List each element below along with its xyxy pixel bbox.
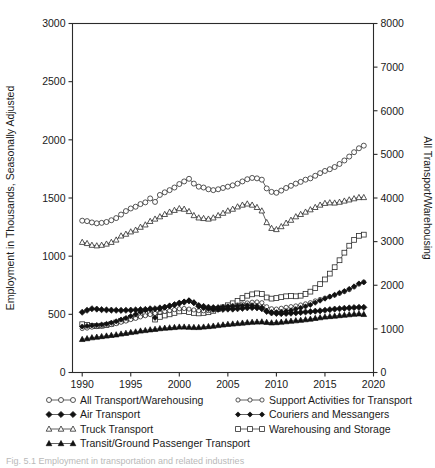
data-point [318,282,323,287]
data-point [196,184,201,189]
data-point [352,150,357,155]
data-point [356,146,361,151]
data-point [259,177,264,182]
data-point [255,291,260,296]
data-point [248,398,252,402]
y2-tick-label: 1000 [381,323,405,335]
data-point [288,183,293,188]
data-point [216,187,221,192]
data-point [191,181,196,186]
data-point [128,206,133,211]
data-point [192,308,196,312]
data-point [167,188,172,193]
legend-label: Warehousing and Storage [269,423,391,435]
data-point [250,175,255,180]
employment-line-chart: Employment in Thousands, Seasonally Adju… [0,0,435,468]
y-tick-label: 1500 [42,192,66,204]
data-point [143,314,147,318]
data-point [303,292,308,297]
data-point [264,186,269,191]
data-point [342,158,347,163]
data-point [352,237,357,242]
data-point [230,183,235,188]
data-point [337,161,342,166]
legend-label: Truck Transport [80,423,153,435]
data-point [119,212,124,217]
x-tick-label: 1990 [71,378,95,390]
data-point [250,292,255,297]
data-point [177,182,182,187]
data-point [236,398,240,402]
x-tick-label: 2005 [216,378,240,390]
data-point [260,301,264,305]
x-tick-label: 2015 [313,378,337,390]
figure-caption: Fig. 5.1 Employment in transportation an… [6,456,245,466]
legend-label: Air Transport [80,408,140,420]
data-point [357,233,362,238]
data-point [187,176,192,181]
data-point [279,295,284,300]
x-tick-label: 2020 [362,378,386,390]
data-point [264,295,269,300]
data-point [293,181,298,186]
y2-tick-label: 8000 [381,17,405,29]
data-point [298,179,303,184]
data-point [361,232,366,237]
data-point [94,221,99,226]
data-point [332,265,337,270]
data-point [236,427,241,432]
data-point [274,296,279,301]
data-point [206,187,211,192]
data-point [71,398,76,403]
y2-tick-label: 3000 [381,235,405,247]
data-point [347,154,352,159]
y-tick-label: 2500 [42,75,66,87]
y2-tick-label: 0 [381,366,387,378]
data-point [109,218,114,223]
data-point [313,286,318,291]
data-point [138,202,143,207]
data-point [225,184,230,189]
data-point [80,218,85,223]
data-point [172,185,177,190]
data-point [148,312,152,316]
data-point [308,289,313,294]
data-point [182,179,187,184]
data-point [308,176,313,181]
data-point [293,294,298,299]
data-point [157,192,162,197]
y-tick-label: 500 [48,308,66,320]
data-point [318,171,323,176]
y2-tick-label: 4000 [381,192,405,204]
data-point [99,220,104,225]
data-point [260,398,264,402]
y2-tick-label: 5000 [381,148,405,160]
data-point [259,292,264,297]
data-point [327,271,332,276]
data-point [133,204,138,209]
data-point [322,168,327,173]
data-point [260,427,265,432]
data-point [327,167,332,172]
data-point [254,176,259,181]
data-point [85,219,90,224]
y2-tick-label: 7000 [381,61,405,73]
y-tick-label: 2000 [42,134,66,146]
y-tick-label: 0 [60,366,66,378]
figure-container: Employment in Thousands, Seasonally Adju… [0,0,435,468]
data-point [201,185,206,190]
data-point [123,209,128,214]
data-point [148,196,153,201]
data-point [235,181,240,186]
x-tick-label: 1995 [119,378,143,390]
data-point [59,398,64,403]
legend-label: All Transport/Warehousing [80,394,203,406]
legend-label: Transit/Ground Passenger Transport [80,437,250,449]
y-axis-title: Employment in Thousands, Seasonally Adju… [4,86,16,311]
data-point [240,179,245,184]
data-point [47,398,52,403]
data-point [248,427,253,432]
y2-axis-title: All Transport/Warehousing [422,136,434,259]
data-point [347,243,352,248]
y-tick-label: 1000 [42,250,66,262]
